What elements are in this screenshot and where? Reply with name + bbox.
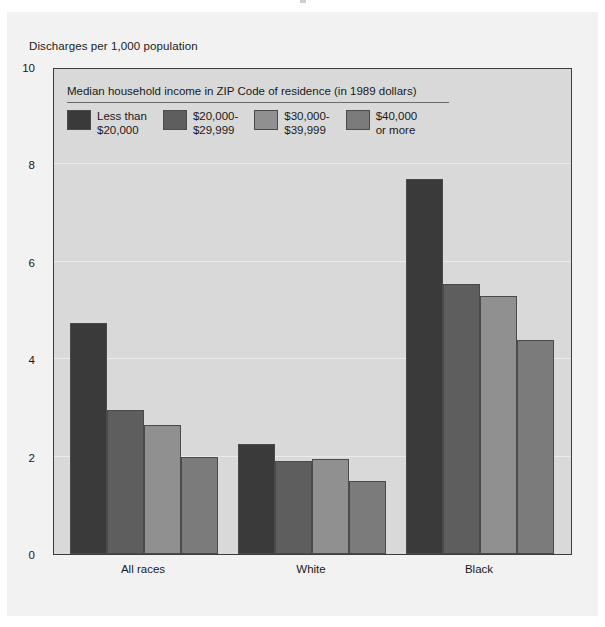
bar (181, 457, 218, 554)
top-edge-mark (300, 0, 306, 3)
bar (349, 481, 386, 554)
bar (275, 461, 312, 554)
bar (144, 425, 181, 554)
legend-item-label-line1: Less than (97, 111, 147, 123)
legend-item: $30,000-$39,999 (254, 110, 329, 137)
legend-item: Less than$20,000 (67, 110, 147, 137)
y-tick-label: 0 (9, 549, 35, 561)
gridline (54, 261, 571, 262)
legend-item-label: $30,000-$39,999 (284, 110, 329, 137)
bar (480, 296, 517, 554)
y-tick-label: 10 (9, 62, 35, 74)
x-tick-label: White (296, 563, 325, 575)
bar (443, 284, 480, 554)
legend-item-label-line2: $39,999 (284, 125, 329, 137)
bar (70, 323, 107, 554)
bar (517, 340, 554, 554)
legend-items: Less than$20,000$20,000-$29,999$30,000-$… (67, 110, 455, 137)
legend-divider (67, 102, 449, 103)
bar (312, 459, 349, 554)
legend-color-swatch (346, 110, 370, 130)
legend-item: $40,000or more (346, 110, 418, 137)
figure-panel: Discharges per 1,000 population 0246810 … (7, 12, 598, 616)
legend-item-label: $20,000-$29,999 (193, 110, 238, 137)
gridline (54, 163, 571, 164)
legend-item-label-line2: $20,000 (97, 125, 147, 137)
x-tick-label: All races (121, 563, 165, 575)
legend-color-swatch (163, 110, 187, 130)
legend: Median household income in ZIP Code of r… (67, 85, 455, 137)
plot-area (53, 68, 572, 555)
y-tick-label: 6 (9, 257, 35, 269)
chart-canvas: Discharges per 1,000 population 0246810 … (0, 0, 605, 627)
legend-item-label-line2: or more (376, 125, 418, 137)
legend-item: $20,000-$29,999 (163, 110, 238, 137)
legend-color-swatch (67, 110, 91, 130)
bar (406, 179, 443, 554)
legend-item-label-line1: $40,000 (376, 111, 418, 123)
y-axis-label: Discharges per 1,000 population (29, 40, 198, 52)
legend-item-label: Less than$20,000 (97, 110, 147, 137)
legend-color-swatch (254, 110, 278, 130)
legend-item-label-line1: $20,000- (193, 111, 238, 123)
y-tick-label: 4 (9, 354, 35, 366)
legend-item-label-line1: $30,000- (284, 111, 329, 123)
y-tick-label: 2 (9, 452, 35, 464)
legend-item-label-line2: $29,999 (193, 125, 238, 137)
legend-title: Median household income in ZIP Code of r… (67, 85, 455, 102)
bar (238, 444, 275, 554)
y-tick-label: 8 (9, 159, 35, 171)
x-tick-label: Black (465, 563, 493, 575)
bar (107, 410, 144, 554)
legend-item-label: $40,000or more (376, 110, 418, 137)
